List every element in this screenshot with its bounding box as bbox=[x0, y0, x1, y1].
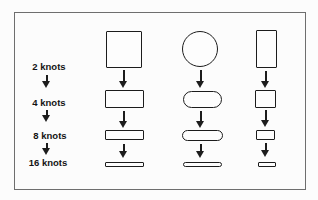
arrow-stem bbox=[123, 111, 125, 122]
circle-column-down-arrow-2 bbox=[196, 144, 206, 158]
arrow-stem bbox=[265, 110, 267, 121]
arrow-head bbox=[261, 120, 269, 127]
arrow-head bbox=[196, 81, 204, 88]
circle-column-down-arrow-0 bbox=[196, 70, 206, 88]
speed-label-8-knots: 8 knots bbox=[20, 130, 80, 141]
arrow-head bbox=[196, 151, 204, 158]
arrow-head bbox=[42, 115, 50, 122]
square-column-down-arrow-1 bbox=[119, 111, 129, 128]
arrow-head bbox=[119, 121, 127, 128]
arrow-head bbox=[42, 81, 50, 88]
circle-column-down-arrow-1 bbox=[196, 111, 206, 128]
speed-label-4-knots: 4 knots bbox=[19, 97, 79, 108]
tall-rect-column-rect-row3 bbox=[256, 130, 275, 140]
arrow-head bbox=[261, 150, 269, 157]
tall-rect-column-rect-row4 bbox=[258, 162, 276, 167]
tall-rect-column-down-arrow-1 bbox=[261, 110, 271, 127]
circle-column-pill-row2 bbox=[183, 91, 222, 108]
square-column-square-row1 bbox=[106, 31, 142, 68]
arrow-head bbox=[196, 121, 204, 128]
arrow-stem bbox=[200, 70, 202, 82]
circle-column-circle-row1 bbox=[182, 31, 218, 67]
speed-scale-down-arrow-1 bbox=[42, 110, 52, 122]
tall-rect-column-rect-row1 bbox=[256, 30, 277, 68]
arrow-head bbox=[119, 151, 127, 158]
circle-column-pill-row3 bbox=[182, 130, 223, 141]
circle-column-pill-row4 bbox=[183, 162, 222, 167]
arrow-stem bbox=[200, 111, 202, 122]
speed-label-16-knots: 16 knots bbox=[18, 157, 78, 168]
tall-rect-column-down-arrow-2 bbox=[261, 143, 271, 157]
arrow-head bbox=[119, 81, 127, 88]
tall-rect-column-down-arrow-0 bbox=[261, 71, 271, 88]
square-column-rect-row4 bbox=[105, 162, 144, 167]
square-column-rect-row3 bbox=[105, 130, 144, 140]
arrow-head bbox=[261, 81, 269, 88]
knots-flattening-diagram: 2 knots 4 knots 8 knots 16 knots bbox=[0, 0, 318, 200]
speed-scale-down-arrow-2 bbox=[42, 143, 52, 155]
square-column-rect-row2 bbox=[105, 90, 144, 108]
speed-scale-down-arrow-0 bbox=[42, 75, 52, 88]
tall-rect-column-square-row2 bbox=[255, 90, 276, 108]
arrow-stem bbox=[123, 70, 125, 82]
arrow-stem bbox=[265, 71, 267, 82]
square-column-down-arrow-0 bbox=[119, 70, 129, 88]
arrow-head bbox=[42, 148, 50, 155]
speed-label-2-knots: 2 knots bbox=[19, 61, 79, 72]
square-column-down-arrow-2 bbox=[119, 144, 129, 158]
